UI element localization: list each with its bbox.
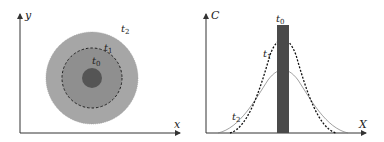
x-axis-label-right: X: [358, 118, 368, 131]
label-t2: t2: [121, 23, 130, 36]
x-axis-label: x: [174, 118, 181, 131]
diffusion-diagram: y x t2 t1 t0 C X t0 t1 t2: [0, 0, 384, 142]
c-axis-label: C: [211, 9, 220, 22]
initial-pulse-bar-t0: [277, 25, 289, 133]
y-axis-label: y: [24, 9, 32, 22]
label-t0-right: t0: [276, 13, 285, 26]
label-t1-right: t1: [263, 48, 272, 61]
left-panel: y x t2 t1 t0: [20, 9, 181, 133]
right-panel: C X t0 t1 t2: [206, 9, 368, 133]
core-circle-t0: [82, 68, 102, 88]
label-t2-right: t2: [232, 111, 241, 124]
